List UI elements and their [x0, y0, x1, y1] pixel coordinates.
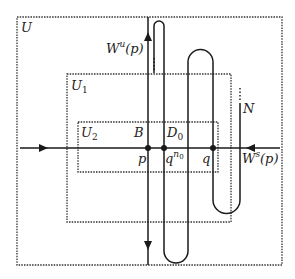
arrow-down-icon	[144, 241, 152, 250]
label-U: U	[21, 20, 33, 35]
label-U2: U2	[81, 125, 98, 142]
homoclinic-diagram: U U1 U2 Wu(p) Ws(p) B D0 p qn0 q N	[0, 0, 295, 279]
folding-curve	[154, 21, 240, 263]
label-stable-manifold: Ws(p)	[242, 149, 278, 166]
label-qn0: qn0	[165, 149, 184, 166]
label-B: B	[133, 125, 144, 140]
point-q-dot	[210, 145, 216, 151]
label-D0: D0	[166, 125, 183, 142]
arrow-up-icon	[144, 32, 152, 41]
region-U-box	[17, 17, 282, 265]
label-unstable-manifold: Wu(p)	[106, 39, 144, 56]
arrow-right-icon	[39, 144, 48, 152]
label-p: p	[138, 151, 147, 166]
label-N: N	[242, 101, 255, 116]
label-q: q	[202, 151, 210, 166]
label-U1: U1	[71, 78, 88, 95]
